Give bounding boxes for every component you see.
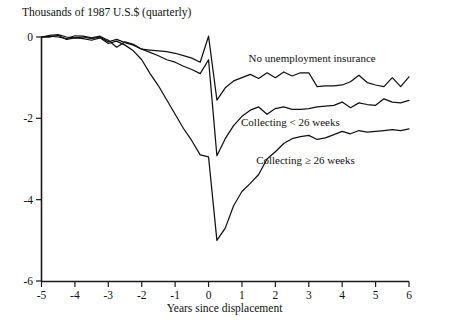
- series-line: [42, 36, 410, 100]
- y-tick-label: -2: [23, 112, 33, 124]
- x-tick-label: 2: [272, 289, 278, 301]
- x-tick-label: -5: [37, 289, 47, 301]
- chart-container: Thousands of 1987 U.S.$ (quarterly) 0-2-…: [0, 0, 449, 320]
- y-tick-label: -4: [23, 194, 33, 206]
- x-tick-label: -2: [137, 289, 147, 301]
- series-annotation-label: Collecting ≥ 26 weeks: [256, 154, 355, 166]
- x-tick-label: -4: [70, 289, 80, 301]
- series-annotation-label: Collecting < 26 weeks: [241, 116, 340, 128]
- x-tick-label: 4: [339, 289, 345, 301]
- series-annotation-label: No unemployment insurance: [249, 52, 376, 64]
- y-axis-tick-labels: 0-2-4-6: [23, 31, 41, 287]
- x-tick-label: 0: [206, 289, 212, 301]
- x-tick-label: 6: [406, 289, 412, 301]
- x-axis-tick-labels: -5-4-3-2-10123456: [37, 282, 412, 302]
- x-tick-label: -1: [170, 289, 180, 301]
- y-tick-label: -6: [23, 275, 33, 287]
- x-axis-label: Years since displacement: [167, 302, 284, 315]
- x-tick-label: 1: [239, 289, 245, 301]
- x-tick-label: 5: [373, 289, 379, 301]
- x-tick-label: 3: [306, 289, 312, 301]
- earnings-loss-line-chart: Thousands of 1987 U.S.$ (quarterly) 0-2-…: [0, 0, 449, 320]
- chart-title: Thousands of 1987 U.S.$ (quarterly): [22, 6, 191, 19]
- x-tick-label: -3: [104, 289, 114, 301]
- y-tick-label: 0: [27, 31, 33, 43]
- series-lines: [42, 35, 410, 241]
